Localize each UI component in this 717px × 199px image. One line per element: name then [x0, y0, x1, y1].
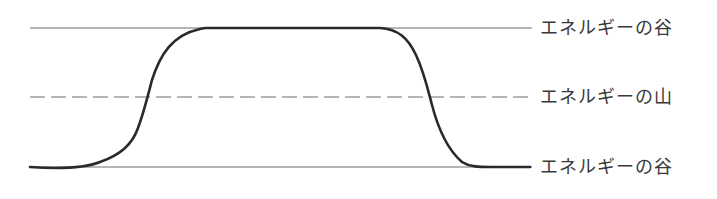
label-top-valley: エネルギーの谷	[540, 18, 673, 38]
energy-curve	[30, 28, 530, 168]
label-peak: エネルギーの山	[540, 87, 673, 107]
label-bottom-valley: エネルギーの谷	[540, 157, 673, 177]
